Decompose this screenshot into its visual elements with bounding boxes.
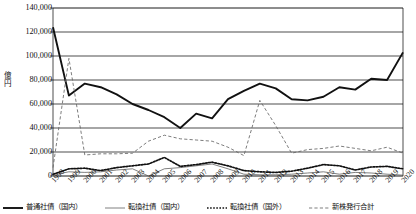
legend-label: 新株発行合計 (332, 203, 374, 211)
x-axis-tick-label: 2000 (82, 168, 98, 184)
x-axis-tick-label: 2017 (352, 168, 368, 184)
legend-label: 転換社債（国外） (230, 203, 286, 211)
x-axis-tick-label: 2005 (161, 168, 177, 184)
legend-label: 転換社債（国内） (128, 203, 184, 211)
x-axis-tick-label: 2010 (241, 168, 257, 184)
x-axis-tick-label: 2019 (384, 168, 400, 184)
chart-legend: 普通社債（国内）転換社債（国内）転換社債（国外）新株発行合計 (0, 203, 406, 214)
x-axis-tick-label: 2020 (400, 168, 416, 184)
x-axis-tick-label: 2011 (257, 168, 273, 184)
x-axis-tick-label: 2013 (289, 168, 305, 184)
x-axis-tick-label: 2003 (130, 168, 146, 184)
x-axis-tick-label: 2015 (320, 168, 336, 184)
x-axis-tick-label: 2008 (209, 168, 225, 184)
x-axis-tick-label: 2004 (145, 168, 161, 184)
x-axis-tick-label: 2009 (225, 168, 241, 184)
x-axis-tick-label: 1999 (66, 168, 82, 184)
legend-item-3[interactable]: 新株発行合計 (308, 203, 374, 211)
x-axis-tick-label: 2001 (98, 168, 114, 184)
x-axis-tick-label: 2006 (177, 168, 193, 184)
legend-label: 普通社債（国内） (26, 203, 82, 211)
legend-item-0[interactable]: 普通社債（国内） (2, 203, 82, 211)
legend-item-1[interactable]: 転換社債（国内） (104, 203, 184, 211)
legend-swatch-solid-thick-icon (2, 204, 24, 210)
legend-swatch-dotted-icon (206, 204, 228, 210)
x-axis-tick-label: 1998 (50, 168, 66, 184)
x-axis-tick-label: 2002 (114, 168, 130, 184)
legend-swatch-dashed-icon (308, 204, 330, 210)
legend-item-2[interactable]: 転換社債（国外） (206, 203, 286, 211)
x-axis-tick-label: 2007 (193, 168, 209, 184)
legend-swatch-solid-thin-icon (104, 204, 126, 210)
x-axis-tick-label: 2016 (336, 168, 352, 184)
x-axis-tick-label: 2014 (305, 168, 321, 184)
x-axis-tick-label: 2018 (368, 168, 384, 184)
x-axis-tick-label: 2012 (273, 168, 289, 184)
